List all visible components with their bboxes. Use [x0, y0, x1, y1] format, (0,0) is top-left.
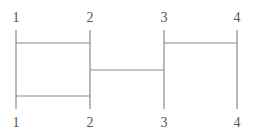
bottom-label-1: 1 — [13, 115, 20, 130]
top-label-2: 2 — [87, 10, 94, 25]
top-label-3: 3 — [161, 10, 168, 25]
bottom-label-4: 4 — [234, 115, 241, 130]
bottom-label-2: 2 — [87, 115, 94, 130]
top-label-4: 4 — [234, 10, 241, 25]
ladder-diagram: 1 2 3 4 1 2 3 4 — [0, 0, 254, 136]
bottom-label-3: 3 — [161, 115, 168, 130]
top-label-1: 1 — [13, 10, 20, 25]
